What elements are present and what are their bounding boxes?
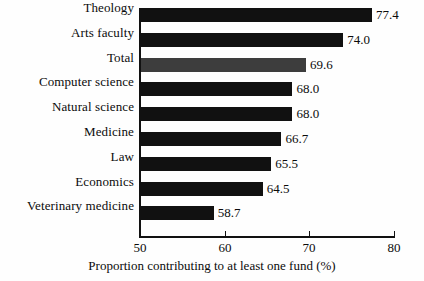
bar-value-label: 68.0	[296, 81, 319, 96]
bar	[140, 58, 306, 72]
x-axis-title: Proportion contributing to at least one …	[0, 258, 424, 274]
x-axis-tick	[140, 231, 141, 236]
category-label: Theology	[0, 1, 134, 15]
category-label: Veterinary medicine	[0, 199, 134, 213]
category-label: Law	[0, 150, 134, 164]
x-axis-tick-label: 70	[289, 240, 329, 255]
bar-chart: TheologyArts facultyTotalComputer scienc…	[0, 0, 424, 281]
category-label: Medicine	[0, 125, 134, 139]
x-axis-tick-label: 60	[205, 240, 245, 255]
category-axis-labels: TheologyArts facultyTotalComputer scienc…	[0, 0, 134, 237]
x-axis-tick-label: 80	[374, 240, 414, 255]
bar-value-label: 58.7	[218, 205, 241, 220]
bar-value-label: 66.7	[285, 131, 308, 146]
category-label: Arts faculty	[0, 26, 134, 40]
bar-value-label: 74.0	[347, 32, 370, 47]
x-axis-tick	[309, 231, 310, 236]
bar	[140, 107, 292, 121]
x-axis-line	[139, 236, 395, 238]
bar-value-label: 65.5	[275, 156, 298, 171]
bar-value-label: 69.6	[310, 57, 333, 72]
category-label: Computer science	[0, 75, 134, 89]
bar-value-label: 68.0	[296, 106, 319, 121]
bar	[140, 206, 214, 220]
bar	[140, 82, 292, 96]
y-axis-line	[139, 8, 141, 237]
bar-value-label: 64.5	[267, 181, 290, 196]
bar	[140, 157, 271, 171]
bar-value-label: 77.4	[376, 7, 399, 22]
bar	[140, 132, 281, 146]
bar	[140, 182, 263, 196]
plot-area: 77.474.069.668.068.066.765.564.558.7	[140, 8, 394, 237]
bar	[140, 33, 343, 47]
category-label: Economics	[0, 175, 134, 189]
category-label: Natural science	[0, 100, 134, 114]
category-label: Total	[0, 51, 134, 65]
x-axis-tick	[225, 231, 226, 236]
x-axis-tick	[394, 231, 395, 236]
bar	[140, 8, 372, 22]
x-axis-tick-label: 50	[120, 240, 160, 255]
